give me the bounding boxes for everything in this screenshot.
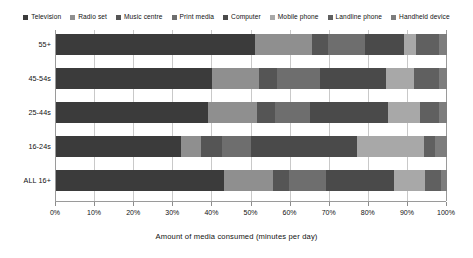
x-axis-tick-label: 0% [50,208,60,217]
bar-segment[interactable] [320,68,386,89]
x-axis-ticks [55,202,446,206]
x-axis-tick [133,202,134,206]
bars-layer [56,30,446,201]
x-axis-tick [407,202,408,206]
bar-row[interactable] [56,136,446,157]
legend-item-label: Computer [231,13,261,21]
legend-item-label: Television [31,13,61,21]
x-axis-tick-label: 80% [361,208,375,217]
bar-segment[interactable] [257,102,275,123]
x-axis-tick [368,202,369,206]
bar-segment[interactable] [273,170,289,191]
bar-segment[interactable] [222,136,251,157]
chart-legend: TelevisionRadio setMusic centrePrint med… [0,10,473,24]
legend-swatch-icon [116,15,121,20]
x-axis-tick-label: 50% [243,208,257,217]
legend-item-label: Mobile phone [278,13,319,21]
bar-segment[interactable] [416,34,439,55]
bar-row[interactable] [56,34,446,55]
legend-swatch-icon [23,15,28,20]
legend-swatch-icon [223,15,228,20]
legend-item-label: Radio set [78,13,107,21]
bar-segment[interactable] [414,68,439,89]
x-axis-tick-label: 20% [126,208,140,217]
x-axis-tick [94,202,95,206]
bar-segment[interactable] [255,34,312,55]
x-axis-tick [251,202,252,206]
bar-row[interactable] [56,68,446,89]
legend-item[interactable]: Television [23,13,61,21]
x-axis-tick [172,202,173,206]
bar-segment[interactable] [224,170,273,191]
bar-segment[interactable] [289,170,326,191]
bar-segment[interactable] [328,34,365,55]
x-axis-tick-label: 90% [400,208,414,217]
y-axis-label: 55+ [0,40,51,49]
x-axis-tick-label: 100% [437,208,455,217]
bar-segment[interactable] [357,136,423,157]
legend-item[interactable]: Print media [172,13,214,21]
bar-segment[interactable] [388,102,419,123]
legend-item[interactable]: Computer [223,13,261,21]
legend-item[interactable]: Radio set [70,13,107,21]
x-axis-tick [329,202,330,206]
legend-item[interactable]: Mobile phone [270,13,319,21]
stacked-bar-chart: TelevisionRadio setMusic centrePrint med… [0,0,473,258]
x-axis-tick [211,202,212,206]
bar-segment[interactable] [365,34,404,55]
bar-row[interactable] [56,102,446,123]
bar-segment[interactable] [386,68,413,89]
x-axis-tick [446,202,447,206]
bar-segment[interactable] [439,34,447,55]
bar-segment[interactable] [251,136,357,157]
legend-swatch-icon [391,15,396,20]
y-axis-label: 45-54s [0,74,51,83]
bar-segment[interactable] [56,34,255,55]
y-axis-label: 16-24s [0,142,51,151]
x-axis-tick [290,202,291,206]
plot-area [55,30,446,202]
bar-segment[interactable] [425,170,441,191]
legend-swatch-icon [70,15,75,20]
x-axis-tick-label: 40% [204,208,218,217]
bar-segment[interactable] [56,102,208,123]
bar-segment[interactable] [439,68,447,89]
legend-item-label: Music centre [124,13,163,21]
bar-segment[interactable] [394,170,425,191]
bar-segment[interactable] [56,170,224,191]
bar-segment[interactable] [404,34,416,55]
x-axis-title: Amount of media consumed (minutes per da… [0,232,473,242]
legend-item[interactable]: Music centre [116,13,163,21]
bar-segment[interactable] [439,102,447,123]
bar-segment[interactable] [277,68,320,89]
x-axis-tick-label: 10% [87,208,101,217]
bar-segment[interactable] [435,136,447,157]
bar-segment[interactable] [208,102,257,123]
x-axis-tick-labels: 0%10%20%30%40%50%60%70%80%90%100% [0,208,473,218]
bar-segment[interactable] [181,136,201,157]
bar-segment[interactable] [420,102,440,123]
legend-swatch-icon [270,15,275,20]
x-axis-tick-label: 60% [283,208,297,217]
legend-swatch-icon [328,15,333,20]
y-axis-label: ALL 16+ [0,176,51,185]
bar-segment[interactable] [312,34,328,55]
bar-segment[interactable] [275,102,310,123]
bar-segment[interactable] [326,170,394,191]
bar-segment[interactable] [424,136,436,157]
legend-item-label: Handheld device [399,13,450,21]
legend-item[interactable]: Handheld device [391,13,450,21]
x-axis-tick-label: 30% [165,208,179,217]
x-axis-tick-label: 70% [322,208,336,217]
bar-segment[interactable] [201,136,223,157]
x-axis-tick [55,202,56,206]
bar-row[interactable] [56,170,446,191]
legend-item[interactable]: Landline phone [328,13,383,21]
bar-segment[interactable] [310,102,388,123]
bar-segment[interactable] [56,136,181,157]
bar-segment[interactable] [441,170,447,191]
y-axis-category-labels: 55+45-54s25-44s16-24sALL 16+ [0,30,51,202]
bar-segment[interactable] [56,68,212,89]
bar-segment[interactable] [212,68,259,89]
bar-segment[interactable] [259,68,277,89]
